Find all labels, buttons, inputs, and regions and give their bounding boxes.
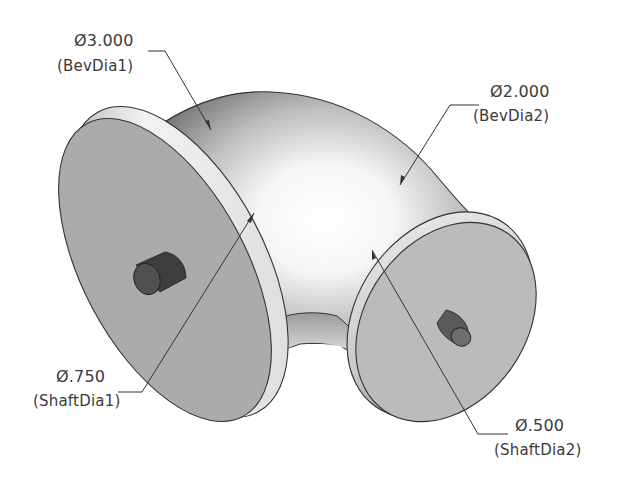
shaftdia1-name: (ShaftDia1) (33, 392, 120, 410)
shaftdia1-value: Ø.750 (56, 368, 105, 386)
bevdia2-value: Ø2.000 (490, 83, 550, 101)
bevdia1-name: (BevDia1) (57, 57, 133, 75)
shaftdia2-value: Ø.500 (515, 417, 564, 435)
bevdia1-value: Ø3.000 (74, 32, 134, 50)
bevdia2-name: (BevDia2) (473, 107, 549, 125)
shaftdia2-name: (ShaftDia2) (494, 441, 581, 459)
